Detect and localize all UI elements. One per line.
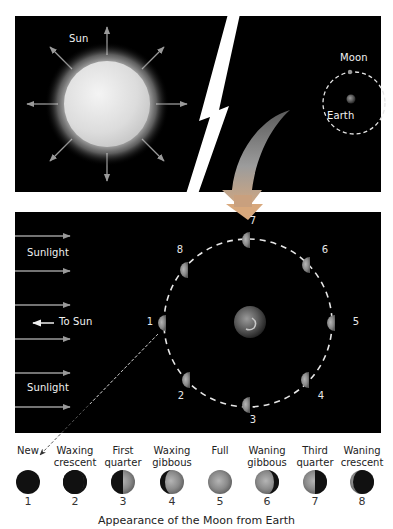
- phase-name-8: Waningcrescent: [332, 445, 392, 469]
- position-number-4: 4: [314, 390, 328, 401]
- phase-icon-waning-crescent: [350, 470, 374, 494]
- phase-number-3: 3: [113, 495, 133, 508]
- phase-number-2: 2: [65, 495, 85, 508]
- phase-icon-new: [16, 470, 40, 494]
- earth-label: Earth: [327, 110, 354, 121]
- position-number-1: 1: [143, 316, 157, 327]
- phase-number-1: 1: [18, 495, 38, 508]
- phase-number-5: 5: [210, 495, 230, 508]
- small-earth-icon: [347, 95, 356, 104]
- phase-icon-first-quarter: [111, 470, 135, 494]
- phase-number-6: 6: [257, 495, 277, 508]
- phase-number-7: 7: [305, 495, 325, 508]
- phase-icon-third-quarter: [303, 470, 327, 494]
- sun-icon: [64, 61, 150, 147]
- phase-icons: [16, 470, 374, 494]
- to-sun-label: To Sun: [59, 316, 92, 327]
- phase-icon-full: [208, 470, 232, 494]
- position-number-2: 2: [174, 390, 188, 401]
- sunlight-label-top: Sunlight: [27, 247, 69, 258]
- phase-number-8: 8: [352, 495, 372, 508]
- moon-label: Moon: [340, 52, 368, 63]
- phase-icon-waxing-crescent: [63, 470, 87, 494]
- figure-caption: Appearance of the Moon from Earth: [0, 514, 393, 527]
- phase-number-4: 4: [162, 495, 182, 508]
- position-number-3: 3: [246, 414, 260, 425]
- earth-icon: [234, 306, 266, 338]
- position-number-7: 7: [246, 215, 260, 226]
- sun-label: Sun: [69, 33, 88, 44]
- small-moon-icon: [348, 70, 352, 74]
- position-number-5: 5: [349, 316, 363, 327]
- phase-icon-waning-gibbous: [255, 470, 279, 494]
- position-number-6: 6: [318, 244, 332, 255]
- sunlight-label-bottom: Sunlight: [27, 382, 69, 393]
- position-number-8: 8: [173, 244, 187, 255]
- phase-icon-waxing-gibbous: [160, 470, 184, 494]
